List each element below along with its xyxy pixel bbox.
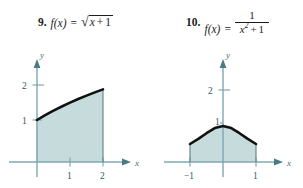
equals-sign: = <box>220 23 235 35</box>
problem-10-number: 10. <box>186 11 204 28</box>
equals-sign: = <box>67 17 82 29</box>
x-axis-label-9: x <box>134 158 139 168</box>
denominator-plus: + <box>248 23 258 35</box>
x-axis-arrow-9 <box>122 159 131 166</box>
x-tick-label-2-9: 2 <box>100 171 105 181</box>
function-label: f(x) <box>51 17 67 29</box>
x-tick-label-1-9: 1 <box>67 171 72 181</box>
problem-9: 9. f(x) = √ x+1 <box>0 0 151 188</box>
y-tick-label-2-10: 2 <box>208 86 213 96</box>
fraction-denominator: x2+1 <box>237 23 267 35</box>
problem-10-graph: x y −1 1 1 2 <box>152 45 303 188</box>
y-axis-label-9: y <box>39 50 44 60</box>
y-tick-label-2-9: 2 <box>22 81 27 91</box>
shaded-area-9 <box>37 89 103 162</box>
radicand-plus: + <box>95 16 106 28</box>
y-axis-arrow-9 <box>34 59 41 68</box>
radicand-constant: 1 <box>105 16 111 28</box>
problem-9-formula: 9. f(x) = √ x+1 <box>0 11 151 45</box>
y-axis-label-10: y <box>225 50 230 60</box>
radical-sign-icon: √ <box>81 15 89 29</box>
fraction-expression: 1 x2+1 <box>235 10 269 35</box>
problem-9-expression: f(x) = √ x+1 <box>51 11 114 30</box>
x-axis-arrow-10 <box>274 159 283 166</box>
problem-9-graph: x y 1 2 1 2 <box>0 45 151 188</box>
x-tick-label-minus1-10: −1 <box>184 171 194 181</box>
problem-9-number: 9. <box>38 11 51 28</box>
fraction-numerator: 1 <box>246 10 258 22</box>
radical-expression: √ x+1 <box>81 16 113 30</box>
y-axis-arrow-10 <box>220 59 227 68</box>
radicand: x+1 <box>89 15 113 29</box>
x-axis-label-10: x <box>286 158 291 168</box>
function-label: f(x) <box>204 23 220 35</box>
exercise-page: 9. f(x) = √ x+1 <box>0 0 303 188</box>
problem-10-formula: 10. f(x) = 1 x2+1 <box>152 11 303 45</box>
problem-10: 10. f(x) = 1 x2+1 <box>152 0 303 188</box>
x-tick-label-1-10: 1 <box>253 171 258 181</box>
denominator-constant: 1 <box>259 23 265 35</box>
y-tick-label-1-10: 1 <box>215 117 220 127</box>
problem-10-expression: f(x) = 1 x2+1 <box>204 11 268 41</box>
y-tick-label-1-9: 1 <box>22 116 27 126</box>
